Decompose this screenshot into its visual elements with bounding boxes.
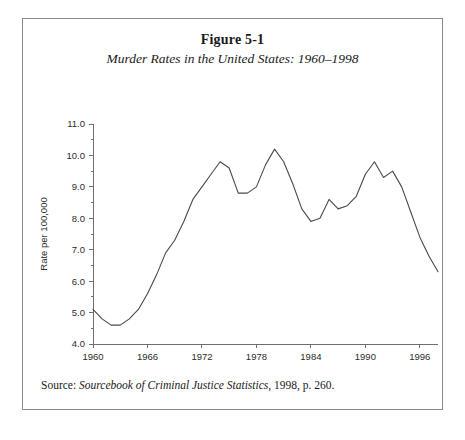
y-tick-label: 7.0	[72, 244, 85, 255]
y-tick-label: 8.0	[72, 213, 85, 224]
figure-title: Figure 5-1	[23, 31, 442, 49]
source-citation-tail: , 1998, p. 260.	[268, 379, 334, 391]
murder-rate-series-line	[93, 149, 438, 325]
title-block: Figure 5-1 Murder Rates in the United St…	[23, 31, 442, 68]
axis-lines	[93, 124, 438, 344]
source-label: Source:	[41, 379, 79, 391]
chart-plot-area: 4.05.06.07.08.09.010.011.0 1960196619721…	[23, 81, 444, 371]
y-axis-ticks: 4.05.06.07.08.09.010.011.0	[67, 118, 94, 349]
y-axis-title: Rate per 100,000	[38, 197, 49, 270]
y-tick-label: 9.0	[72, 181, 85, 192]
y-tick-label: 5.0	[72, 307, 85, 318]
y-tick-label: 4.0	[72, 338, 85, 349]
x-tick-label: 1960	[82, 351, 103, 362]
x-tick-label: 1966	[137, 351, 158, 362]
source-publication-title: Sourcebook of Criminal Justice Statistic…	[79, 379, 268, 391]
y-tick-label: 11.0	[67, 118, 85, 129]
x-tick-label: 1972	[191, 351, 212, 362]
murder-rate-line-chart: 4.05.06.07.08.09.010.011.0 1960196619721…	[23, 81, 444, 371]
x-tick-label: 1996	[409, 351, 430, 362]
x-tick-label: 1984	[300, 351, 321, 362]
y-tick-label: 6.0	[72, 276, 85, 287]
y-tick-label: 10.0	[67, 150, 86, 161]
figure-subtitle: Murder Rates in the United States: 1960–…	[23, 50, 442, 68]
figure-frame: Figure 5-1 Murder Rates in the United St…	[22, 18, 443, 410]
x-axis-ticks: 1960196619721978198419901996	[82, 344, 430, 362]
x-tick-label: 1978	[246, 351, 267, 362]
x-tick-label: 1990	[355, 351, 376, 362]
source-note: Source: Sourcebook of Criminal Justice S…	[41, 379, 334, 391]
x-axis-title: Year of Murder	[234, 369, 297, 371]
